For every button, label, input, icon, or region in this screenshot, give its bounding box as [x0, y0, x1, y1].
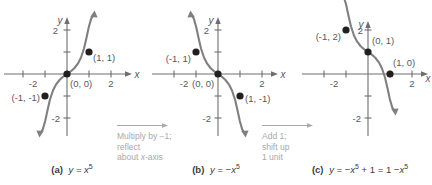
point-1-0	[386, 70, 393, 77]
caption-c: (c) y = −x5 + 1 = 1 −x5	[288, 163, 432, 175]
caption-equation-c: y = −x5 + 1 = 1 −x5	[329, 164, 408, 175]
caption-tag-c: (c)	[312, 164, 324, 175]
point-0-0	[63, 70, 70, 77]
x-axis-label-b: x	[280, 69, 287, 80]
point-0-1	[364, 48, 371, 55]
caption-tag-a: (a)	[51, 164, 63, 175]
y-tick-neg2-c: -2	[353, 113, 361, 124]
point-label-0-0: (0, 0)	[192, 78, 214, 89]
point-label-1-1: (1, 1)	[93, 52, 115, 63]
x-tick-2-a: 2	[108, 78, 113, 89]
point-label-1-0: (1, 0)	[393, 57, 415, 68]
point-1-neg1	[236, 92, 243, 99]
point-label-neg1-1: (-1, 1)	[166, 53, 191, 64]
x-tick-2-b: 2	[259, 78, 264, 89]
x-axis-label-c: x	[425, 73, 432, 84]
x-tick-neg2-c: -2	[330, 78, 338, 89]
x-axis-c	[302, 71, 428, 78]
point-label-neg1-2: (-1, 2)	[316, 31, 341, 42]
x-tick-neg2-b: -2	[180, 78, 188, 89]
x-tick-2-c: 2	[409, 78, 414, 89]
caption-equation-b: y = −x5	[210, 164, 240, 175]
point-neg1-neg1	[41, 92, 48, 99]
panel-c: x y -2 2 2 -2 (-1, 2) (0, 1) (1, 0) (c) …	[288, 0, 432, 185]
y-tick-neg2-a: -2	[52, 113, 60, 124]
y-tick-2-a: 2	[53, 25, 58, 36]
y-tick-2-c: 2	[358, 25, 363, 36]
point-neg1-2	[342, 26, 349, 33]
x-axis-label-a: x	[134, 69, 141, 80]
point-label-neg1-neg1: (-1, -1)	[12, 92, 41, 103]
point-label-0-0: (0, 0)	[70, 78, 92, 89]
plot-c: x y -2 2 2 -2 (-1, 2) (0, 1) (1, 0)	[288, 0, 432, 160]
point-1-1	[85, 48, 92, 55]
point-label-0-1: (0, 1)	[372, 35, 394, 46]
x-tick-neg2-a: -2	[29, 78, 37, 89]
caption-tag-b: (b)	[192, 164, 204, 175]
point-neg1-1	[192, 48, 199, 55]
y-axis-c	[365, 21, 372, 136]
caption-equation-a: y = x5	[69, 164, 93, 175]
point-label-1-neg1: (1, -1)	[245, 93, 270, 104]
y-tick-2-b: 2	[204, 25, 209, 36]
caption-b: (b) y = −x5	[144, 163, 288, 175]
caption-a: (a) y = x5	[0, 163, 144, 175]
point-0-0	[214, 70, 221, 77]
y-tick-neg2-b: -2	[203, 113, 211, 124]
